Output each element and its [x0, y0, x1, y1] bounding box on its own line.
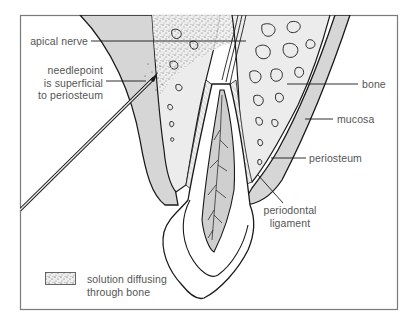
label-needlepoint-line3: to periosteum — [20, 89, 103, 102]
legend-label: solution diffusing through bone — [87, 273, 167, 298]
label-periodontal-line1: periodontal — [255, 204, 325, 217]
label-periosteum-text: periosteum — [309, 152, 362, 165]
label-periosteum: periosteum — [309, 152, 362, 165]
legend-label-line1: solution diffusing — [87, 273, 167, 286]
label-needlepoint-line1: needlepoint — [20, 64, 103, 77]
legend-label-line2: through bone — [87, 286, 167, 299]
label-periodontal-ligament: periodontal ligament — [255, 204, 325, 229]
diagram-canvas: apical nerve needlepoint is superficial … — [0, 0, 410, 323]
label-apical-nerve-text: apical nerve — [20, 35, 88, 48]
label-needlepoint-line2: is superficial — [20, 77, 103, 90]
label-periodontal-line2: ligament — [255, 217, 325, 230]
label-mucosa-text: mucosa — [337, 113, 374, 126]
label-mucosa: mucosa — [337, 113, 374, 126]
label-needlepoint: needlepoint is superficial to periosteum — [20, 64, 103, 102]
label-apical-nerve: apical nerve — [20, 35, 88, 48]
label-bone-text: bone — [362, 78, 386, 91]
label-bone: bone — [362, 78, 386, 91]
legend-swatch-stippled — [46, 273, 76, 285]
